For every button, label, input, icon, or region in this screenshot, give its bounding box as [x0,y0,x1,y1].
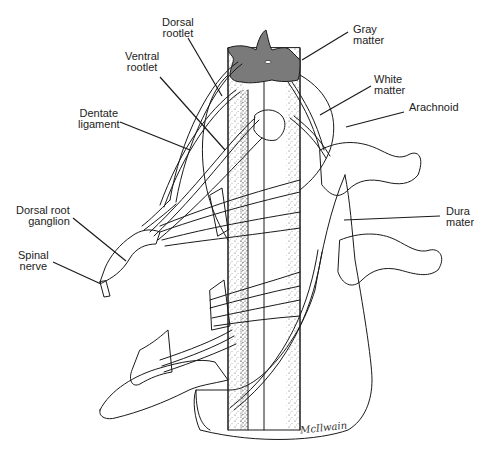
anatomy-figure: Dorsal rootlet Ventral rootlet Gray matt… [0,0,491,458]
label-line: matter [374,85,405,96]
label-line: ganglion [16,216,70,227]
label-dentate-ligament: Dentate ligament [78,108,120,130]
leader-dorsal-root-ganglion [73,218,126,261]
label-dorsal-rootlet: Dorsal rootlet [162,17,194,39]
label-line: ligament [78,119,120,130]
dura-root-sleeve-upper [320,143,421,196]
label-line: Arachnoid [409,102,459,113]
spinal-cord-column [228,48,300,430]
label-line: nerve [18,261,49,272]
white-matter-region [254,110,285,141]
label-arachnoid: Arachnoid [409,102,459,113]
leader-dorsal-rootlet [188,38,222,96]
dentate-ligament-flaps [210,188,230,330]
label-spinal-nerve: Spinal nerve [18,250,49,272]
label-gray-matter: Gray matter [353,24,384,46]
label-line: mater [446,217,474,228]
dorsal-root-ganglion-shape [100,230,160,297]
leader-spinal-nerve [53,262,101,284]
label-line: rootlet [125,62,159,73]
gray-matter-section [228,30,300,83]
label-dorsal-root-ganglion: Dorsal root ganglion [16,205,70,227]
label-dura-mater: Dura mater [446,206,474,228]
leader-white-matter [320,86,371,115]
leader-arachnoid [346,112,404,127]
label-ventral-rootlet: Ventral rootlet [125,51,159,73]
leader-dura-mater [344,216,440,220]
arachnoid-membrane [202,75,333,240]
leader-dentate-ligament [120,122,190,150]
label-line: rootlet [162,28,194,39]
spinal-cord-illustration [0,0,491,458]
label-line: matter [353,35,384,46]
leader-gray-matter [302,32,348,60]
dorsal-rootlets [142,62,242,230]
label-white-matter: White matter [374,74,405,96]
